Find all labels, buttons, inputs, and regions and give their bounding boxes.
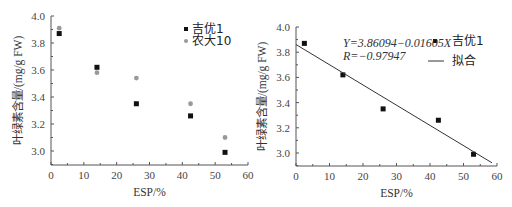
y-tick-label: 3.0 [31, 145, 45, 157]
y-tick-label: 4.0 [31, 10, 45, 22]
r-value-text: R=−0.97947 [342, 49, 407, 63]
x-tick-label: 60 [492, 170, 504, 182]
x-tick-label: 30 [144, 169, 156, 181]
x-tick-label: 50 [458, 170, 470, 182]
y-tick-label: 3.2 [276, 122, 290, 134]
data-point-square [94, 65, 99, 70]
data-point-circle [57, 26, 62, 31]
x-tick-label: 10 [324, 170, 336, 182]
chart-canvas: 01020304050603.03.23.43.63.84.0ESP/%叶绿素含… [0, 0, 512, 207]
y-axis-label: 叶绿素含量/(mg/g FW) [11, 36, 25, 146]
x-tick-label: 20 [111, 169, 123, 181]
y-tick-label: 3.0 [276, 147, 290, 159]
x-tick-label: 50 [210, 169, 222, 181]
x-tick-label: 0 [48, 169, 54, 181]
x-tick-label: 10 [78, 169, 90, 181]
data-point-circle [95, 70, 100, 75]
data-point-square [57, 31, 62, 36]
x-tick-label: 0 [293, 170, 299, 182]
y-tick-label: 3.4 [31, 91, 45, 103]
legend-label: 吉优1 [452, 34, 484, 48]
data-point-circle [134, 76, 139, 81]
y-tick-label: 3.8 [31, 37, 45, 49]
y-tick-label: 3.4 [276, 97, 290, 109]
x-tick-label: 40 [177, 169, 189, 181]
x-tick-label: 20 [358, 170, 370, 182]
y-tick-label: 3.6 [31, 64, 45, 76]
data-point-square [381, 106, 386, 111]
x-axis-label: ESP/% [380, 187, 413, 199]
data-point-square [436, 118, 441, 123]
legend-square-icon [184, 27, 188, 31]
y-tick-label: 4.0 [276, 21, 290, 33]
equation-text: Y=3.86094−0.01605X [343, 36, 452, 50]
legend-label: 农大10 [192, 34, 231, 48]
legend-circle-icon [184, 39, 188, 43]
data-point-circle [223, 135, 228, 140]
data-point-square [223, 150, 228, 155]
y-tick-label: 3.2 [31, 118, 45, 130]
data-point-circle [188, 101, 193, 106]
x-tick-label: 30 [391, 170, 403, 182]
data-point-square [134, 101, 139, 106]
data-point-square [188, 113, 193, 118]
x-tick-label: 40 [425, 170, 437, 182]
y-tick-label: 3.8 [276, 46, 290, 58]
y-axis-label: 叶绿素含量/(mg/g FW) [255, 42, 269, 152]
x-axis-label: ESP/% [133, 186, 166, 198]
x-tick-label: 60 [243, 169, 255, 181]
legend-label: 拟合 [452, 53, 476, 68]
y-tick-label: 3.6 [276, 71, 290, 83]
data-point-square [302, 41, 307, 46]
